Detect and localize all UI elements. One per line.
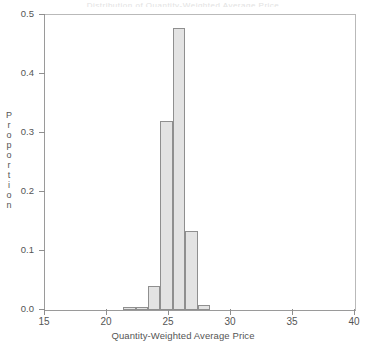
y-axis-tick-label: 0.5 xyxy=(4,8,34,19)
y-axis-title-letter: t xyxy=(3,170,15,180)
y-axis-tick xyxy=(39,73,45,74)
y-axis-tick-label: 0.0 xyxy=(4,303,34,314)
x-axis-title: Quantity-Weighted Average Price xyxy=(0,330,366,341)
x-axis-tick-label: 25 xyxy=(148,316,188,327)
y-axis-tick-label: 0.2 xyxy=(4,185,34,196)
y-axis-tick-label: 0.4 xyxy=(4,67,34,78)
y-axis-title-letter: r xyxy=(3,160,15,170)
histogram-bar xyxy=(136,307,148,310)
x-axis-tick-label: 15 xyxy=(24,316,64,327)
y-axis-tick xyxy=(39,191,45,192)
histogram-bar xyxy=(198,305,210,310)
figure-title-remnant: Distribution of Quantity-Weighted Averag… xyxy=(0,0,366,7)
histogram-bar xyxy=(160,121,172,310)
x-axis-tick-label: 35 xyxy=(272,316,312,327)
y-axis-title-letter: o xyxy=(3,150,15,160)
x-axis-tick xyxy=(106,309,107,315)
y-axis-tick xyxy=(39,14,45,15)
x-axis-tick xyxy=(230,309,231,315)
y-axis-tick xyxy=(39,250,45,251)
x-axis-tick xyxy=(44,309,45,315)
x-axis-tick-label: 40 xyxy=(334,316,366,327)
histogram-bar xyxy=(173,28,185,310)
x-axis-tick xyxy=(292,309,293,315)
y-axis-title-letter: n xyxy=(3,200,15,210)
plot-area xyxy=(44,14,356,311)
histogram-bar xyxy=(123,307,135,310)
x-axis-tick-label: 20 xyxy=(86,316,126,327)
x-axis-tick-label: 30 xyxy=(210,316,250,327)
y-axis-title-letter: p xyxy=(3,140,15,150)
y-axis-tick xyxy=(39,132,45,133)
x-axis-tick xyxy=(354,309,355,315)
x-axis-tick xyxy=(168,309,169,315)
y-axis-tick-label: 0.3 xyxy=(4,126,34,137)
y-axis-title-letter: P xyxy=(3,110,15,120)
histogram-bar xyxy=(148,286,160,310)
histogram-bar xyxy=(185,231,197,310)
bars-group xyxy=(45,15,355,310)
histogram-figure: Distribution of Quantity-Weighted Averag… xyxy=(0,0,366,344)
y-axis-tick-label: 0.1 xyxy=(4,244,34,255)
